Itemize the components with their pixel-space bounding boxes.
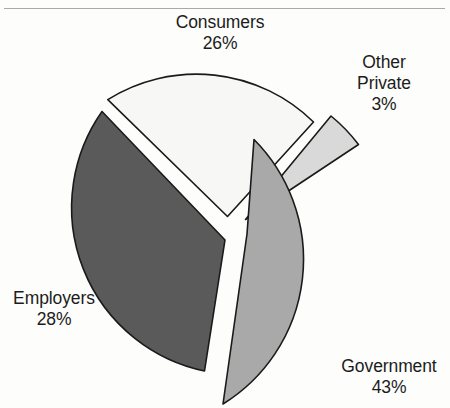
- slice-label-other-private-name-line1: Other: [362, 52, 405, 72]
- slice-label-government-percent: 43%: [330, 377, 448, 398]
- pie-slices: [72, 74, 359, 404]
- slice-label-other-private-percent: 3%: [336, 94, 432, 115]
- pie-chart-figure: Consumers 26% Other Private 3% Employers…: [0, 0, 450, 408]
- slice-label-government-name: Government: [341, 356, 436, 376]
- slice-label-employers-name: Employers: [13, 288, 95, 308]
- slice-label-consumers: Consumers 26%: [152, 12, 288, 54]
- slice-label-employers: Employers 28%: [2, 288, 106, 330]
- slice-label-other-private: Other Private 3%: [336, 52, 432, 115]
- slice-label-consumers-name: Consumers: [176, 12, 265, 32]
- slice-label-consumers-percent: 26%: [152, 33, 288, 54]
- slice-label-other-private-name-line2: Private: [336, 73, 432, 94]
- slice-label-employers-percent: 28%: [2, 309, 106, 330]
- slice-label-government: Government 43%: [330, 356, 448, 398]
